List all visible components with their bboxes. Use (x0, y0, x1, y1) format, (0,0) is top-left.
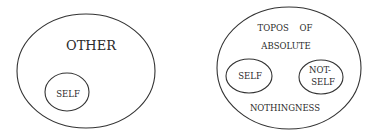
other-label: OTHER (66, 38, 117, 53)
absolute-label: ABSOLUTE (260, 41, 310, 51)
diagram-canvas: OTHER SELF TOPOS OF ABSOLUTE NOTHINGNESS… (0, 0, 366, 138)
nothingness-label: NOTHINGNESS (250, 103, 320, 113)
topos-of-label: TOPOS OF (258, 23, 313, 33)
not-label: NOT- (309, 65, 331, 75)
self-label-right: SELF (238, 71, 262, 81)
not-self-self-label: SELF (311, 77, 335, 87)
diagram-other-self: OTHER SELF (17, 14, 155, 128)
self-label: SELF (56, 89, 80, 99)
diagram-topos-absolute-nothingness: TOPOS OF ABSOLUTE NOTHINGNESS SELF NOT- … (217, 7, 361, 129)
other-ellipse (17, 14, 155, 128)
